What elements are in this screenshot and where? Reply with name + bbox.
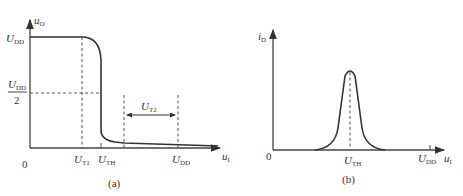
a-x-tick-uth: UTH bbox=[98, 153, 115, 167]
svg-text:2: 2 bbox=[14, 94, 20, 106]
a-y-axis-label: uO bbox=[34, 14, 45, 28]
svg-text:UDD: UDD bbox=[8, 78, 26, 92]
b-x-tick-uth: UTH bbox=[344, 154, 361, 168]
b-origin-label: 0 bbox=[266, 150, 272, 162]
panel-a-transfer-characteristic: uO uI 0 UT2 UDD UDD 2 UT1 UTH UDD (a) bbox=[6, 14, 231, 190]
b-x-axis-label: uI bbox=[444, 152, 453, 166]
a-x-axis-label: uI bbox=[222, 150, 231, 164]
a-x-tick-ut1: UT1 bbox=[74, 153, 90, 167]
a-origin-label: 0 bbox=[22, 158, 28, 170]
diagram-canvas: uO uI 0 UT2 UDD UDD 2 UT1 UTH UDD (a) iD… bbox=[0, 0, 463, 196]
a-ut2-label: UT2 bbox=[141, 100, 157, 114]
panel-b-current-characteristic: iD uI 0 UTH UDD (b) bbox=[258, 30, 453, 186]
a-y-tick-udd-half: UDD 2 bbox=[8, 78, 27, 106]
a-y-tick-udd: UDD bbox=[6, 32, 24, 46]
b-caption: (b) bbox=[342, 173, 355, 186]
a-caption: (a) bbox=[108, 177, 121, 190]
a-x-tick-udd: UDD bbox=[172, 153, 190, 167]
b-y-axis-label: iD bbox=[258, 30, 266, 44]
b-x-tick-udd: UDD bbox=[418, 152, 436, 166]
